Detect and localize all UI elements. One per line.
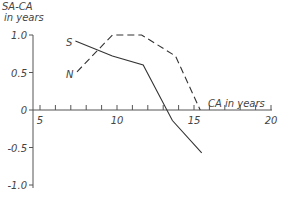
series-label-n: N (66, 69, 74, 80)
y-tick-label: -0.5 (7, 143, 27, 154)
y-tick-label: -1.0 (7, 180, 27, 191)
series-label-s: S (66, 37, 73, 48)
x-tick-label: 5 (37, 115, 43, 126)
x-tick-label: 15 (188, 115, 201, 126)
y-axis-label-line2: in years (4, 12, 44, 23)
x-tick-label: 10 (111, 115, 124, 126)
series-lines (75, 35, 201, 153)
series-n-line (77, 35, 200, 110)
y-tick-label: 0.5 (11, 68, 27, 79)
y-ticks: 1.00.50-0.5-1.0 (7, 30, 33, 191)
y-tick-label: 0 (21, 105, 27, 116)
y-axis-label-line1: SA-CA (2, 1, 33, 12)
chart: 1.00.50-0.5-1.0 5101520 SA-CA in years C… (0, 0, 286, 200)
x-tick-label: 20 (265, 115, 278, 126)
series-s-line (75, 41, 201, 153)
x-axis-label: CA in years (208, 98, 265, 109)
y-tick-label: 1.0 (11, 30, 27, 41)
